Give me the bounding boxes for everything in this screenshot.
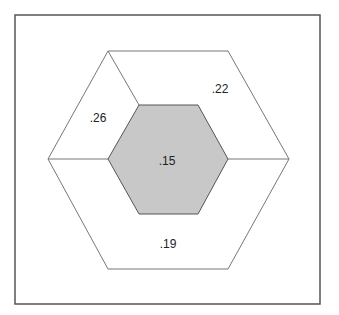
label-upper-right: .22 xyxy=(212,82,229,96)
label-upper-left: .26 xyxy=(90,111,107,125)
hexagon-diagram: .26 .22 .15 .19 xyxy=(0,0,339,315)
label-center: .15 xyxy=(159,154,176,168)
label-bottom: .19 xyxy=(160,237,177,251)
